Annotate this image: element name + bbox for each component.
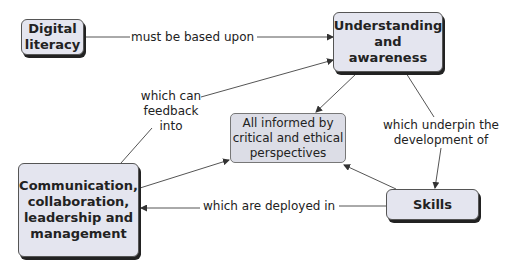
node-communication-label: Communication, collaboration, leadership… [19, 178, 138, 242]
node-digital-literacy[interactable]: Digital literacy [21, 19, 84, 55]
node-critical-ethical-perspectives[interactable]: All informed by critical and ethical per… [230, 113, 346, 163]
node-understanding-label: Understanding and awareness [334, 18, 443, 66]
node-communication[interactable]: Communication, collaboration, leadership… [18, 163, 139, 257]
link-label-underpin: which underpin the development of [382, 118, 500, 148]
link-label-feedback: which can feedback into [140, 89, 202, 134]
node-understanding-awareness[interactable]: Understanding and awareness [333, 12, 443, 72]
link-label-underpin-text: which underpin the development of [383, 118, 499, 147]
link-label-deployed: which are deployed in [203, 199, 335, 214]
node-central-label: All informed by critical and ethical per… [231, 116, 345, 161]
node-skills[interactable]: Skills [386, 189, 479, 220]
link-label-feedback-text: which can feedback into [141, 89, 201, 133]
link-label-based-upon: must be based upon [131, 30, 254, 45]
node-digital-literacy-label: Digital literacy [22, 21, 83, 53]
node-skills-label: Skills [413, 197, 452, 213]
